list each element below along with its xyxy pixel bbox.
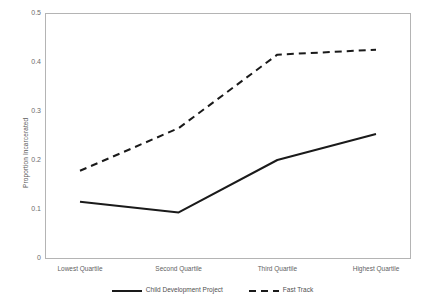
- x-axis-tick-label: Highest Quartile: [331, 265, 421, 273]
- x-axis-tick-label: Third Quartile: [232, 265, 322, 273]
- plot-border: [46, 14, 411, 259]
- legend-item[interactable]: Child Development Project: [112, 281, 223, 299]
- chart-legend: Child Development ProjectFast Track: [0, 281, 425, 299]
- legend-item[interactable]: Fast Track: [249, 281, 313, 299]
- plot-area: [0, 0, 425, 301]
- legend-label: Child Development Project: [146, 286, 223, 294]
- legend-label: Fast Track: [283, 286, 313, 294]
- x-axis-tick-label: Second Quartile: [134, 265, 224, 273]
- dashed-line-icon: [249, 281, 279, 299]
- x-axis-tick-label: Lowest Quartile: [35, 265, 125, 273]
- solid-line-icon: [112, 281, 142, 299]
- line-chart: Proportion Incarcerated 0.50.40.30.20.10…: [0, 0, 425, 301]
